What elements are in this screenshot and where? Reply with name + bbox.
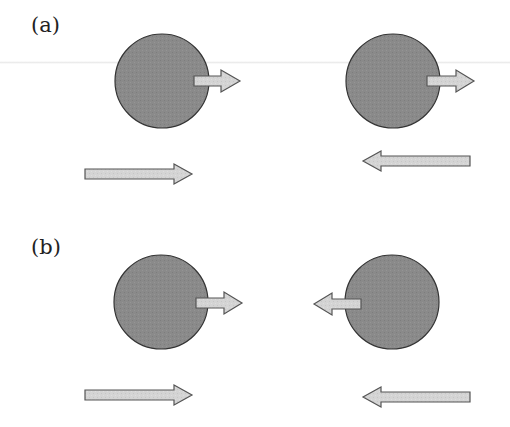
ball-a-right <box>346 34 440 128</box>
panel-b <box>85 255 470 407</box>
frame-arrow-right-icon <box>85 385 192 405</box>
ball-b-left <box>114 255 208 349</box>
frame-arrow-left-icon <box>363 387 470 407</box>
frame-arrow-left-icon <box>363 151 470 171</box>
panel-a <box>85 34 474 184</box>
diagram-canvas <box>0 0 510 427</box>
frame-arrow-right-icon <box>85 164 192 184</box>
